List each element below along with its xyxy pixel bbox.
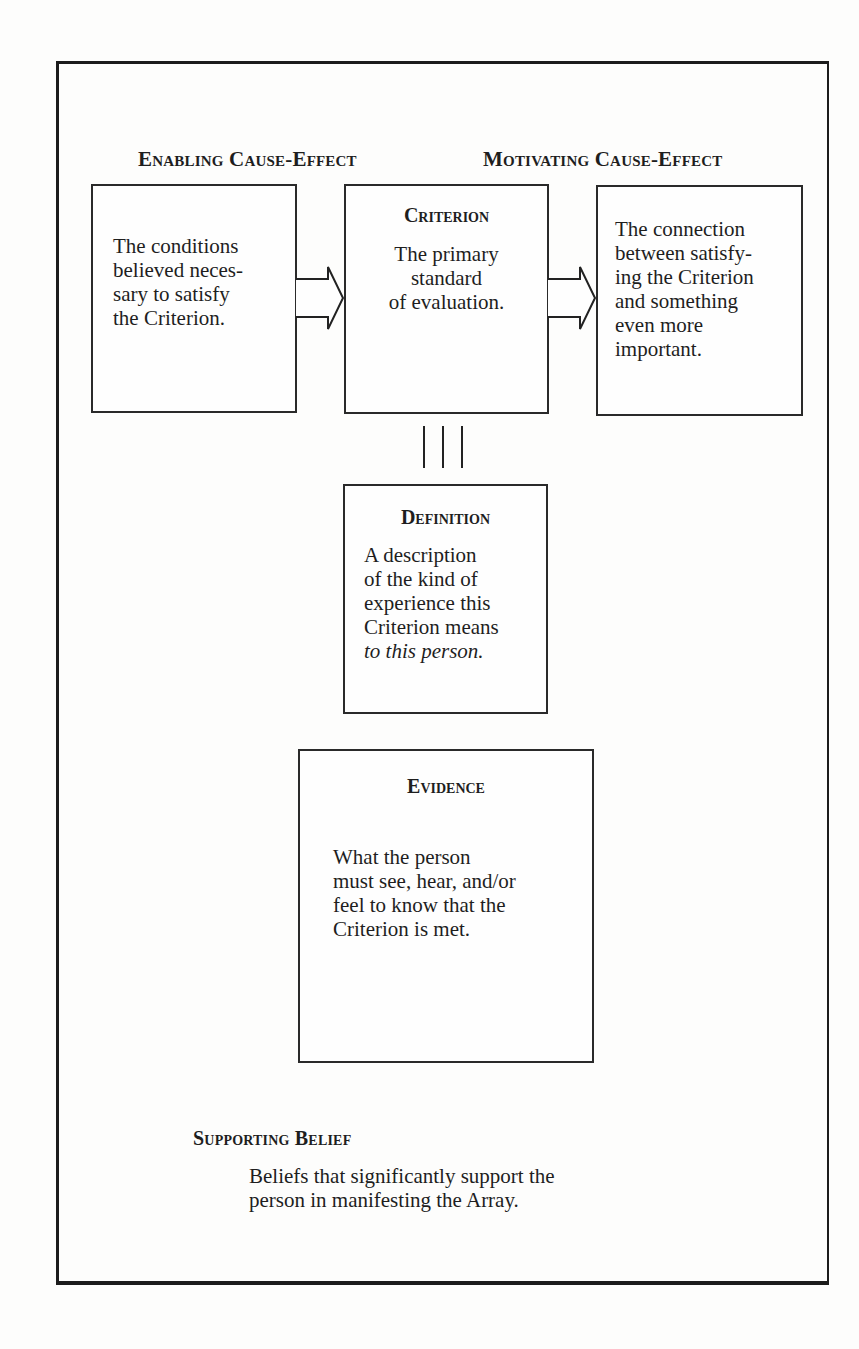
text-line: believed neces- bbox=[113, 258, 243, 282]
text-line: experience this bbox=[364, 591, 499, 615]
evidence-box: Evidence What the person must see, hear,… bbox=[298, 749, 594, 1063]
text-line: ing the Criterion bbox=[615, 265, 754, 289]
hollow-right-arrow-icon bbox=[548, 265, 598, 331]
text-line: of evaluation. bbox=[346, 290, 547, 314]
supporting-belief-description: Beliefs that significantly support the p… bbox=[249, 1164, 555, 1212]
evidence-title: Evidence bbox=[300, 775, 592, 798]
text-line: Beliefs that significantly support the bbox=[249, 1164, 555, 1188]
enabling-box: The conditions believed neces- sary to s… bbox=[91, 184, 297, 413]
motivating-cause-effect-heading: Motivating Cause-Effect bbox=[483, 147, 723, 172]
text-line: important. bbox=[615, 337, 754, 361]
text-line: Criterion is met. bbox=[333, 917, 516, 941]
text-line: between satisfy- bbox=[615, 241, 754, 265]
text-line: sary to satisfy bbox=[113, 282, 243, 306]
text-line: The primary bbox=[346, 242, 547, 266]
text-line: even more bbox=[615, 313, 754, 337]
italic-text-line: to this person. bbox=[364, 639, 484, 663]
text-line: The conditions bbox=[113, 234, 243, 258]
criterion-box: Criterion The primary standard of evalua… bbox=[344, 184, 549, 414]
bar bbox=[423, 426, 425, 468]
bar bbox=[461, 426, 463, 468]
text-line: feel to know that the bbox=[333, 893, 516, 917]
definition-title: Definition bbox=[345, 506, 546, 529]
text-line: A description bbox=[364, 543, 499, 567]
text-line: Criterion means bbox=[364, 615, 499, 639]
text-line: and something bbox=[615, 289, 754, 313]
hollow-right-arrow-icon bbox=[296, 265, 346, 331]
motivating-box: The connection between satisfy- ing the … bbox=[596, 185, 803, 416]
criterion-title: Criterion bbox=[346, 204, 547, 227]
text-line: standard bbox=[346, 266, 547, 290]
text-line: the Criterion. bbox=[113, 306, 243, 330]
text-line: The connection bbox=[615, 217, 754, 241]
enabling-description: The conditions believed neces- sary to s… bbox=[113, 234, 243, 330]
definition-box: Definition A description of the kind of … bbox=[343, 484, 548, 714]
motivating-description: The connection between satisfy- ing the … bbox=[615, 217, 754, 361]
text-line: of the kind of bbox=[364, 567, 499, 591]
enabling-cause-effect-heading: Enabling Cause-Effect bbox=[138, 147, 357, 172]
bar bbox=[442, 426, 444, 468]
text-line: What the person bbox=[333, 845, 516, 869]
definition-description: A description of the kind of experience … bbox=[364, 543, 499, 663]
criterion-description: The primary standard of evaluation. bbox=[346, 242, 547, 314]
supporting-belief-heading: Supporting Belief bbox=[193, 1127, 351, 1150]
text-line: must see, hear, and/or bbox=[333, 869, 516, 893]
text-line: person in manifesting the Array. bbox=[249, 1188, 555, 1212]
evidence-description: What the person must see, hear, and/or f… bbox=[333, 845, 516, 941]
